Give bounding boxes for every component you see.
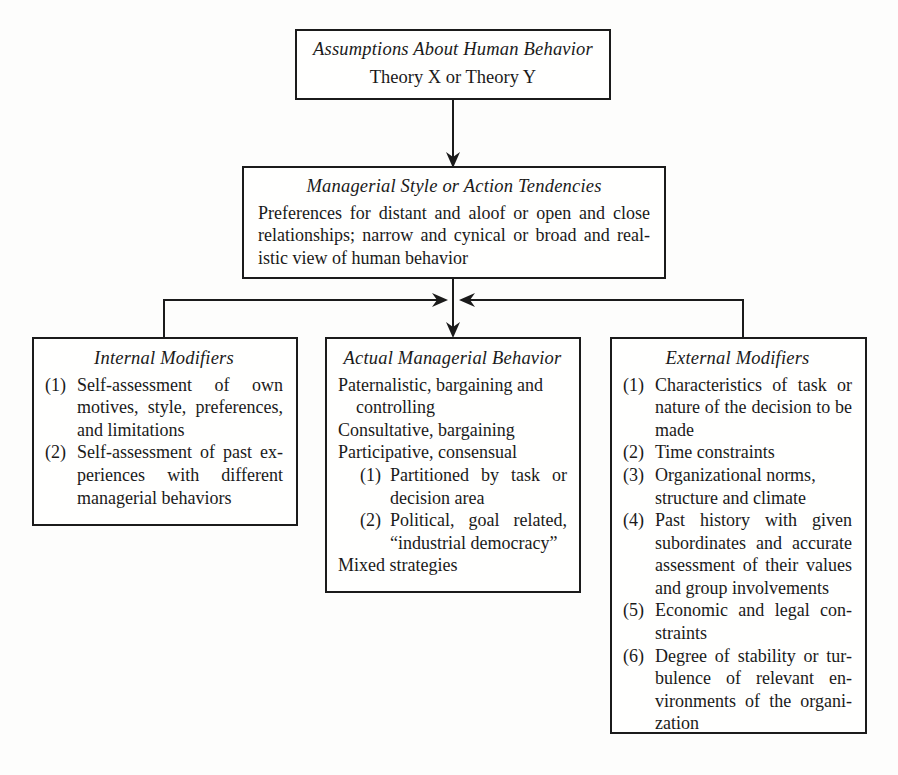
item-marker: (5) (623, 599, 655, 622)
item-marker: (4) (623, 509, 655, 532)
list-item: (4) Past history with given subordinates… (623, 509, 852, 599)
node-actual-managerial-behavior: Actual Managerial Behavior Paternalistic… (325, 337, 581, 593)
connector-style-to-actual (446, 279, 460, 338)
item-text: Political, goal related, “industrial dem… (390, 509, 567, 554)
node-managerial-style-or-action-tendencies: Managerial Style or Action Tendencies Pr… (242, 166, 666, 279)
list-item: (1) Characteristics of task or nature of… (623, 374, 852, 442)
style-body: Preferences for distant and aloof or ope… (258, 202, 650, 270)
item-text: Characteristics of task or nature of the… (655, 374, 852, 442)
list-item: (1) Self-assessment of own motives, styl… (45, 374, 283, 442)
assumptions-subtitle: Theory X or Theory Y (309, 65, 597, 89)
item-marker: (2) (623, 441, 655, 464)
item-text: Partitioned by task or decision area (390, 464, 567, 509)
list-item: (2) Political, goal related, “industrial… (360, 509, 567, 554)
node-external-modifiers: External Modifiers (1) Characteristics o… (610, 337, 867, 734)
item-text: Self-assessment of past ex-periences wit… (77, 441, 283, 509)
list-item: (1) Partitioned by task or decision area (360, 464, 567, 509)
item-marker: (2) (45, 441, 77, 464)
item-text: Economic and legal con-straints (655, 599, 852, 644)
actual-behavior-title: Actual Managerial Behavior (338, 347, 567, 371)
node-internal-modifiers: Internal Modifiers (1) Self-assessment o… (32, 337, 298, 526)
item-text: Degree of stability or tur-bulence of re… (655, 645, 852, 735)
item-marker: (2) (360, 509, 390, 532)
item-text: Organizational norms, structure and clim… (655, 464, 852, 509)
style-title: Managerial Style or Action Tendencies (258, 175, 650, 199)
list-item: (6) Degree of stability or tur-bulence o… (623, 645, 852, 735)
item-marker: (1) (360, 464, 390, 487)
list-item: (5) Economic and legal con-straints (623, 599, 852, 644)
connector-assumptions-to-style (446, 100, 460, 168)
item-text: Self-assessment of own motives, style, p… (77, 374, 283, 442)
external-modifiers-title: External Modifiers (623, 347, 852, 371)
item-text: Time constraints (655, 441, 852, 464)
list-item: (2) Time constraints (623, 441, 852, 464)
item-text: Past history with given subordinates and… (655, 509, 852, 599)
actual-behavior-sublist: (1) Partitioned by task or decision area… (360, 464, 567, 554)
connector-internal-to-center (164, 293, 448, 337)
item-marker: (6) (623, 645, 655, 668)
diagram-canvas: Assumptions About Human Behavior Theory … (0, 0, 898, 775)
internal-modifiers-title: Internal Modifiers (45, 347, 283, 371)
actual-behavior-line: Mixed strategies (338, 554, 567, 577)
list-item: (2) Self-assessment of past ex-periences… (45, 441, 283, 509)
item-marker: (1) (623, 374, 655, 397)
actual-behavior-line: Participative, consensual (338, 441, 567, 464)
actual-behavior-line: Consultative, bargaining (338, 419, 567, 442)
connector-external-to-center (459, 293, 743, 337)
actual-behavior-line: Paternalistic, bargaining and controllin… (338, 374, 567, 419)
external-modifiers-list: (1) Characteristics of task or nature of… (623, 374, 852, 735)
internal-modifiers-list: (1) Self-assessment of own motives, styl… (45, 374, 283, 509)
list-item: (3) Organizational norms, structure and … (623, 464, 852, 509)
item-marker: (3) (623, 464, 655, 487)
node-assumptions-about-human-behavior: Assumptions About Human Behavior Theory … (295, 29, 611, 100)
assumptions-title: Assumptions About Human Behavior (309, 38, 597, 62)
item-marker: (1) (45, 374, 77, 397)
